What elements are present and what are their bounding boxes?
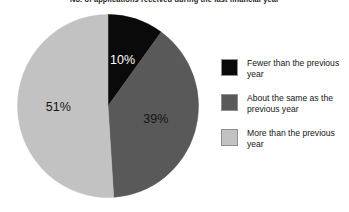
- legend-swatch-same-icon: [221, 94, 238, 111]
- legend-swatch-fewer-icon: [221, 59, 238, 76]
- pie-svg: 10% 39% 51%: [17, 14, 199, 198]
- legend-item-same[interactable]: About the same as the previous year: [221, 93, 347, 125]
- pie-label-about-the-same-as-previous-year: 39%: [143, 112, 168, 126]
- pie-slices: [18, 15, 199, 198]
- legend-label-same: About the same as the previous year: [247, 93, 347, 115]
- pie-label-fewer-than-previous-year: 10%: [110, 53, 135, 67]
- chart-title: No. of applications received during the …: [0, 0, 349, 4]
- pie-chart-figure: No. of applications received during the …: [0, 0, 349, 212]
- pie-label-more-than-previous-year: 51%: [46, 100, 71, 114]
- legend-label-fewer: Fewer than the previous year: [247, 58, 347, 80]
- pie-graphic: 10% 39% 51%: [17, 14, 199, 198]
- legend-swatch-more-icon: [221, 129, 238, 146]
- legend-label-more: More than the previous year: [247, 128, 347, 150]
- legend-item-fewer[interactable]: Fewer than the previous year: [221, 58, 347, 90]
- legend-item-more[interactable]: More than the previous year: [221, 128, 347, 160]
- chart-legend: Fewer than the previous year About the s…: [221, 58, 347, 163]
